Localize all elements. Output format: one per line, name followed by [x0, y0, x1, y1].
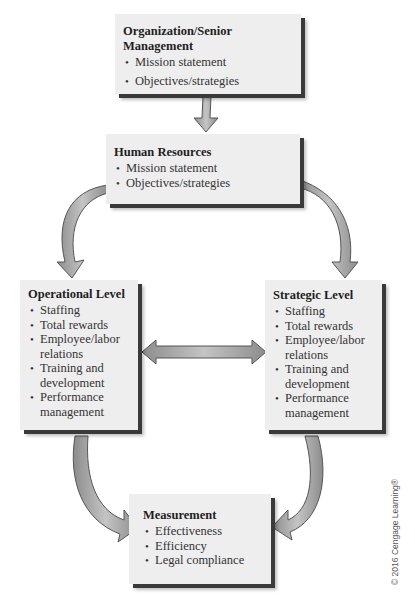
node-org: Organization/Senior Management Mission s…	[115, 14, 301, 94]
node-item: Efficiency	[143, 539, 263, 554]
node-item: Objectives/strategies	[114, 176, 292, 191]
node-item: Objectives/strategies	[123, 74, 293, 89]
node-measurement: Measurement Effectiveness Efficiency Leg…	[129, 494, 271, 584]
node-item: Total rewards	[273, 319, 374, 334]
node-item: Total rewards	[28, 318, 130, 333]
arrow-org-to-hr	[194, 96, 218, 132]
node-operational: Operational Level Staffing Total rewards…	[20, 280, 138, 430]
copyright-notice: © 2016 Cengage Learning®	[390, 479, 400, 585]
node-strategic: Strategic Level Staffing Total rewards E…	[265, 280, 382, 430]
node-hr: Human Resources Mission statement Object…	[106, 134, 300, 204]
node-item: Employee/labor relations	[28, 332, 130, 361]
double-arrow-operational-strategic	[142, 340, 266, 364]
arrow-strategic-to-measurement	[272, 436, 323, 540]
node-item: Training and development	[273, 362, 374, 391]
node-title: Measurement	[143, 508, 263, 523]
node-item: Mission statement	[114, 161, 292, 176]
node-item: Staffing	[28, 303, 130, 318]
node-item: Effectiveness	[143, 524, 263, 539]
node-title: Operational Level	[28, 287, 130, 302]
node-item: Performance management	[28, 390, 130, 419]
node-item: Staffing	[273, 304, 374, 319]
node-item: Performance management	[273, 391, 374, 420]
node-item: Employee/labor relations	[273, 333, 374, 362]
node-title: Human Resources	[114, 145, 292, 160]
node-item: Mission statement	[123, 55, 293, 70]
arrow-hr-to-strategic	[300, 180, 358, 278]
node-item: Legal compliance	[143, 553, 263, 568]
node-title: Organization/Senior Management	[123, 24, 293, 54]
node-title: Strategic Level	[273, 288, 374, 303]
arrow-hr-to-operational	[57, 185, 108, 278]
node-item: Training and development	[28, 361, 130, 390]
